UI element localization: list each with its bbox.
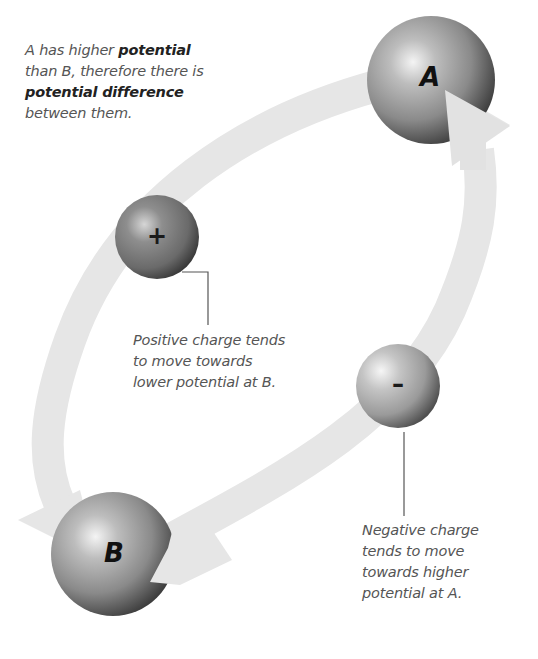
negative-callout-line2: tends to move (362, 541, 522, 562)
negative-callout-line3: towards higher (362, 562, 522, 583)
positive-callout-line2: to move towards (133, 351, 303, 372)
note-potential-bold: potential (118, 42, 190, 58)
potential-difference-note: A has higher potential than B, therefore… (25, 40, 265, 124)
sphere-a (367, 16, 510, 170)
note-potential-difference-bold: potential difference (25, 84, 184, 100)
label-a: A (410, 62, 450, 92)
negative-charge-callout: Negative charge tends to move towards hi… (362, 520, 522, 604)
note-line1-prefix: A has higher (25, 42, 118, 58)
label-b: B (94, 538, 134, 568)
positive-charge-callout: Positive charge tends to move towards lo… (133, 330, 303, 393)
plus-sign-icon: + (142, 222, 172, 250)
positive-callout-line1: Positive charge tends (133, 330, 303, 351)
leader-line-positive (182, 272, 208, 325)
negative-callout-line4: potential at A. (362, 583, 522, 604)
note-line2: than B, therefore there is (25, 61, 265, 82)
note-line4: between them. (25, 103, 265, 124)
arrow-a-to-b (18, 85, 380, 560)
minus-sign-icon: – (383, 370, 413, 398)
negative-callout-line1: Negative charge (362, 520, 522, 541)
positive-callout-line3: lower potential at B. (133, 372, 303, 393)
